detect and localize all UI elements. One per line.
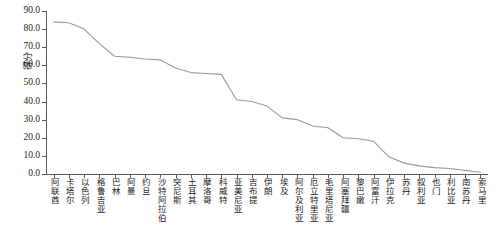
x-category-label: 摩洛哥 — [202, 178, 211, 205]
y-tick-label: 30.0 — [23, 115, 40, 125]
x-category-label: 毛里塔尼亚 — [324, 178, 333, 223]
data-series-line — [46, 11, 488, 174]
y-tick-label: 70.0 — [23, 42, 40, 52]
y-tick-label: 80.0 — [23, 24, 40, 34]
x-category-label: 利比亚 — [446, 178, 455, 205]
y-tick-label: 0.0 — [28, 169, 40, 179]
x-category-label: 叙利亚 — [415, 178, 424, 205]
x-category-label: 亚美尼亚 — [232, 178, 241, 214]
y-tick-label: 90.0 — [23, 6, 40, 16]
x-category-label: 阿联酋 — [49, 178, 58, 205]
x-category-label: 索马里 — [476, 178, 485, 205]
x-category-label: 约旦 — [141, 178, 150, 196]
y-tick-label: 20.0 — [23, 133, 40, 143]
x-category-label: 阿富汗 — [369, 178, 378, 205]
series-polyline — [54, 22, 481, 172]
x-category-label: 以色列 — [80, 178, 89, 205]
x-category-label: 巴林 — [110, 178, 119, 196]
x-category-label: 格鲁吉亚 — [95, 178, 104, 214]
x-category-label: 卡塔尔 — [65, 178, 74, 205]
x-category-label: 土耳其 — [186, 178, 195, 205]
y-tick-label: 10.0 — [23, 151, 40, 161]
x-category-label: 埃及 — [278, 178, 287, 196]
x-category-label: 阿曼 — [125, 178, 134, 196]
x-axis-category-labels: 阿联酋卡塔尔以色列格鲁吉亚巴林阿曼约旦沙特阿拉伯突尼斯土耳其摩洛哥科威特亚美尼亚… — [46, 178, 488, 252]
x-category-label: 苏丹 — [400, 178, 409, 196]
x-category-label: 伊拉克 — [385, 178, 394, 205]
x-category-label: 伊朗 — [263, 178, 272, 196]
line-chart: 得分 0.010.020.030.040.050.060.070.080.090… — [0, 0, 494, 252]
x-category-label: 黎巴嫩 — [354, 178, 363, 205]
x-category-label: 厄立特里亚 — [308, 178, 317, 223]
y-tick-label: 40.0 — [23, 97, 40, 107]
y-tick-label: 50.0 — [23, 79, 40, 89]
x-category-label: 突尼斯 — [171, 178, 180, 205]
x-category-label: 阿塞拜疆 — [339, 178, 348, 214]
x-category-label: 南苏丹 — [461, 178, 470, 205]
y-tick-mark — [42, 174, 46, 175]
x-category-label: 阿尔及利亚 — [293, 178, 302, 223]
x-category-label: 吉布提 — [247, 178, 256, 205]
y-tick-label: 60.0 — [23, 61, 40, 71]
plot-area: 0.010.020.030.040.050.060.070.080.090.0 — [46, 11, 488, 174]
x-category-label: 沙特阿拉伯 — [156, 178, 165, 223]
x-category-label: 也门 — [430, 178, 439, 196]
x-category-label: 科威特 — [217, 178, 226, 205]
